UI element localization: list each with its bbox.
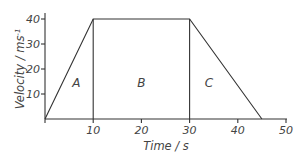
y-axis-title: Velocity / ms-1 <box>13 29 27 110</box>
region-label-c: C <box>205 76 214 90</box>
velocity-line <box>45 19 262 119</box>
y-tick-label: 40 <box>26 13 40 26</box>
x-tick-label: 50 <box>279 124 293 137</box>
x-tick-label: 20 <box>134 124 148 137</box>
x-axis-title: Time / s <box>143 139 189 153</box>
y-axis-title-text: Velocity / ms <box>13 36 27 110</box>
velocity-time-chart: 102030405010203040 ABC Time / s Velocity… <box>0 0 298 156</box>
x-tick-label: 30 <box>183 124 197 137</box>
x-tick-label: 40 <box>231 124 245 137</box>
x-tick-label: 10 <box>86 124 100 137</box>
y-tick-label: 30 <box>26 38 40 51</box>
region-label-b: B <box>137 76 145 90</box>
plot-area: ABC <box>45 19 262 119</box>
y-tick-label: 10 <box>26 88 40 101</box>
y-axis-title-superscript: -1 <box>14 29 22 36</box>
y-tick-label: 20 <box>26 63 40 76</box>
region-label-a: A <box>71 76 80 90</box>
